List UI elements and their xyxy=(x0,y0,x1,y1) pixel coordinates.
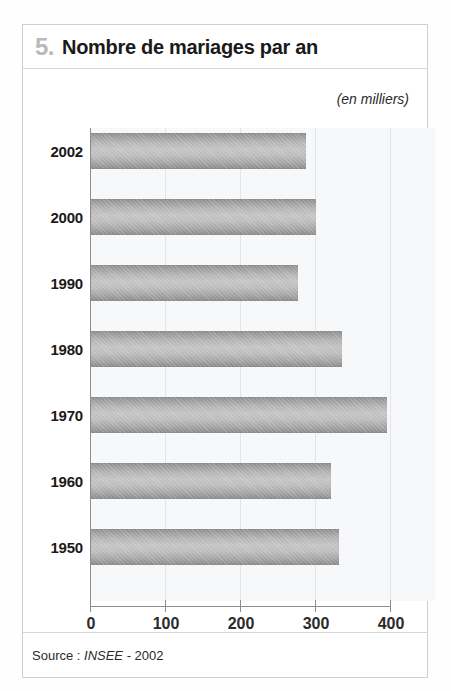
chart-card: 5. Nombre de mariages par an (en millier… xyxy=(22,24,428,678)
x-tick-0 xyxy=(90,600,91,612)
bar-row: 1950 xyxy=(23,529,427,565)
bar-row: 1980 xyxy=(23,331,427,367)
x-tick-label-0: 0 xyxy=(61,615,121,633)
bar-row: 2002 xyxy=(23,133,427,169)
x-tick-label-200: 200 xyxy=(211,615,271,633)
screenshot-root: 5. Nombre de mariages par an (en millier… xyxy=(0,0,451,691)
bar-2002[interactable] xyxy=(91,133,306,169)
bar-1950[interactable] xyxy=(91,529,339,565)
bar-category-label: 1990 xyxy=(23,275,83,292)
card-header: 5. Nombre de mariages par an xyxy=(23,25,427,69)
x-tick-label-300: 300 xyxy=(286,615,346,633)
bar-1980[interactable] xyxy=(91,331,342,367)
title-number: 5. xyxy=(35,35,54,59)
page-title: Nombre de mariages par an xyxy=(62,37,318,57)
source-suffix: - 2002 xyxy=(123,648,163,663)
bar-category-label: 1970 xyxy=(23,407,83,424)
bar-row: 2000 xyxy=(23,199,427,235)
bar-row: 1990 xyxy=(23,265,427,301)
bar-1960[interactable] xyxy=(91,463,331,499)
source-prefix: Source : xyxy=(32,648,84,663)
bar-category-label: 2000 xyxy=(23,209,83,226)
bar-category-label: 1950 xyxy=(23,539,83,556)
bar-2000[interactable] xyxy=(91,199,316,235)
chart-area: (en milliers) 2002 2000 1990 1980 1970 xyxy=(23,69,427,632)
x-tick-100 xyxy=(165,600,166,612)
source-organization: INSEE xyxy=(84,648,123,663)
bar-category-label: 2002 xyxy=(23,143,83,160)
bar-category-label: 1960 xyxy=(23,473,83,490)
x-tick-label-100: 100 xyxy=(136,615,196,633)
bar-row: 1960 xyxy=(23,463,427,499)
x-tick-300 xyxy=(315,600,316,612)
bar-row: 1970 xyxy=(23,397,427,433)
bar-1990[interactable] xyxy=(91,265,298,301)
x-tick-400 xyxy=(390,600,391,612)
bar-category-label: 1980 xyxy=(23,341,83,358)
chart-unit-note: (en milliers) xyxy=(337,91,409,107)
source-note: Source : INSEE - 2002 xyxy=(32,648,164,663)
x-tick-label-400: 400 xyxy=(361,615,421,633)
card-footer: Source : INSEE - 2002 xyxy=(23,632,427,677)
x-tick-200 xyxy=(240,600,241,612)
bar-1970[interactable] xyxy=(91,397,387,433)
